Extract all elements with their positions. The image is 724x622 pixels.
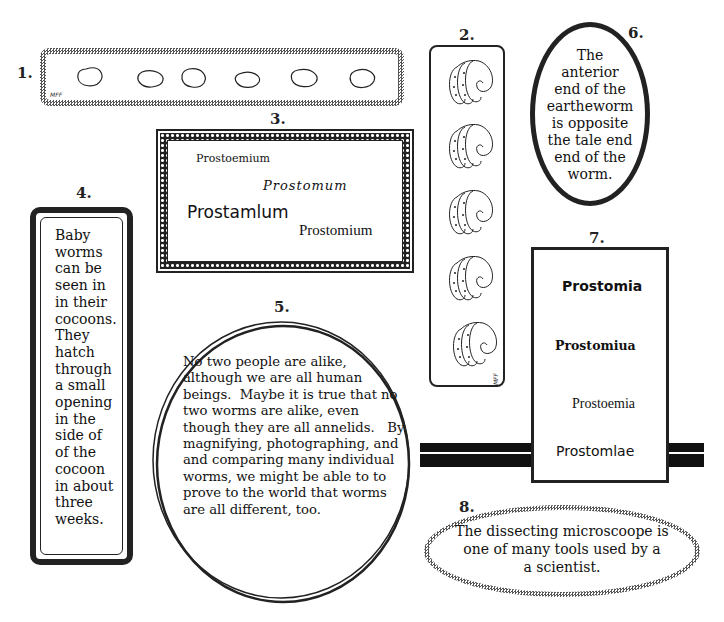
panel-2-number: 2.	[459, 26, 475, 44]
word-prostomum: Prostomum	[263, 178, 348, 193]
panel-4-inner: Baby worms can be seen in in their cocoo…	[40, 217, 123, 555]
worm-end-icon	[450, 60, 493, 103]
cocoon-icon	[182, 69, 205, 87]
word-prostomia: Prostomia	[562, 278, 642, 294]
cocoon-icon	[291, 69, 317, 86]
panel-8-inner: The dissecting microscoope is one of man…	[429, 510, 695, 592]
panel-5-magnifier-lens: No two people are alike, although we are…	[149, 304, 415, 604]
worm-end-icon	[450, 124, 493, 167]
word-prostomium: Prostomium	[299, 222, 372, 239]
cocoon-icon	[138, 71, 163, 87]
worm-end-icon	[450, 256, 493, 299]
magnifier-handle-right	[667, 443, 704, 467]
worm-end-icon	[454, 322, 497, 365]
word-prostomlae: Prostomlae	[556, 443, 634, 459]
panel-7-number: 7.	[589, 229, 605, 247]
panel-6-text: The anterior end of the eartheworm is op…	[535, 47, 645, 183]
panel-2-frame: MFF	[429, 45, 505, 387]
panel-3-frame: Prostoemium Prostomum Prostamlum Prostom…	[156, 129, 414, 273]
panel-7-frame: Prostomia Prostomiua Prostoemia Prostoml…	[531, 247, 669, 483]
panel-8-number: 8.	[459, 498, 475, 516]
panel-4-number: 4.	[76, 184, 92, 202]
magnifier-handle-left	[420, 443, 532, 467]
artist-signature: MFF	[50, 91, 62, 98]
word-prostoemia: Prostoemia	[572, 396, 635, 412]
word-prostoemium: Prostoemium	[196, 152, 270, 165]
panel-8-text: The dissecting microscoope is one of man…	[429, 522, 695, 576]
artist-signature: MFF	[492, 373, 499, 385]
panel-3-inner: Prostoemium Prostomum Prostamlum Prostom…	[167, 140, 403, 262]
cocoon-icon	[235, 72, 259, 87]
worm-ends-illustration	[431, 47, 503, 385]
panel-1-inner: MFF	[46, 54, 398, 100]
panel-1-number: 1.	[17, 64, 33, 82]
worm-end-icon	[450, 190, 493, 233]
cocoon-icon	[350, 69, 374, 87]
panel-1-frame: MFF	[40, 48, 404, 106]
panel-8-oval: The dissecting microscoope is one of man…	[424, 505, 700, 597]
panel-3-number: 3.	[270, 110, 286, 128]
cocoons-illustration	[46, 54, 398, 100]
cocoon-icon	[78, 68, 102, 86]
panel-4-frame: Baby worms can be seen in in their cocoo…	[30, 207, 133, 565]
word-prostomiua: Prostomiua	[555, 338, 636, 353]
panel-5-text: No two people are alike, although we are…	[183, 354, 423, 518]
panel-4-text: Baby worms can be seen in in their cocoo…	[55, 227, 117, 528]
panel-6-number: 6.	[628, 24, 644, 42]
panel-6-oval: The anterior end of the eartheworm is op…	[530, 22, 650, 206]
word-prostamlum: Prostamlum	[187, 202, 289, 222]
